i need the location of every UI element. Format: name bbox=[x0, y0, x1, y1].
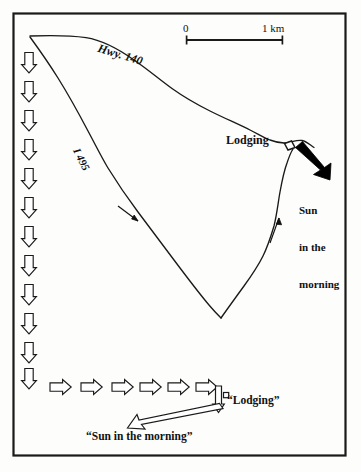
sun-in-the-morning-map-label: Sun in the morning bbox=[299, 179, 339, 314]
lodging-map-label: Lodging bbox=[226, 134, 269, 147]
sun-label-line-2: in the bbox=[299, 241, 339, 253]
sun-label-line-1: Sun bbox=[299, 204, 339, 216]
sun-label-line-3: morning bbox=[299, 278, 339, 290]
map-figure: 0 1 km Hwy. 140 I 495 Lodging Sun in the… bbox=[0, 0, 361, 472]
legend-lodging-label: “Lodging” bbox=[227, 394, 279, 407]
scale-bar-end-label: 1 km bbox=[262, 22, 284, 34]
legend-sun-label: “Sun in the morning” bbox=[86, 430, 192, 443]
scale-bar-start-label: 0 bbox=[183, 22, 189, 34]
